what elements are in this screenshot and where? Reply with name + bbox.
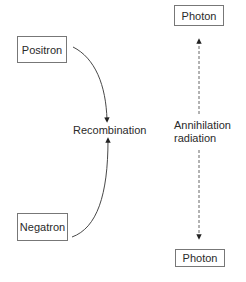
positron-label: Positron <box>22 44 62 56</box>
recombination-label: Recombination <box>73 124 146 137</box>
negatron-to-recombination-arrow <box>72 140 108 237</box>
negatron-box: Negatron <box>17 213 68 241</box>
photon-top-box: Photon <box>174 5 224 26</box>
annihilation-label-line1: Annihilation <box>174 119 231 132</box>
annihilation-label-line2: radiation <box>174 132 216 145</box>
photon-bottom-box: Photon <box>175 249 225 267</box>
positron-to-recombination-arrow <box>73 47 107 120</box>
photon-bottom-label: Photon <box>183 252 218 264</box>
negatron-label: Negatron <box>20 221 65 233</box>
photon-top-label: Photon <box>182 10 217 22</box>
positron-box: Positron <box>17 36 67 63</box>
